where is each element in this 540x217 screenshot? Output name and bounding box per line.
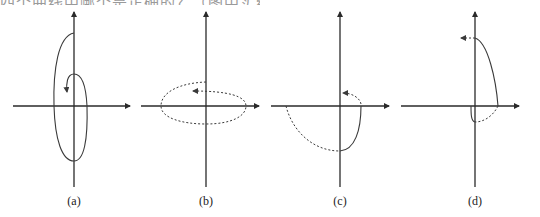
panel-label-b: (b) (191, 194, 221, 209)
solid-arc-first-quadrant (475, 38, 498, 106)
panel-c (271, 12, 389, 187)
panel-b (141, 12, 259, 187)
dotted-ellipse-curve (161, 82, 246, 124)
dotted-arc-first-quadrant (343, 93, 361, 104)
panel-label-a: (a) (59, 194, 89, 209)
panel-d (401, 12, 519, 187)
panel-a (13, 12, 130, 187)
dotted-arc-fourth-quadrant (475, 106, 498, 122)
panel-label-c: (c) (325, 194, 355, 209)
phase-diagrams (0, 0, 540, 217)
solid-spiral-curve (54, 33, 87, 161)
dotted-arc-third-quadrant (286, 106, 340, 151)
solid-arc-fourth-quadrant (340, 106, 361, 151)
panel-label-d: (d) (460, 194, 490, 209)
